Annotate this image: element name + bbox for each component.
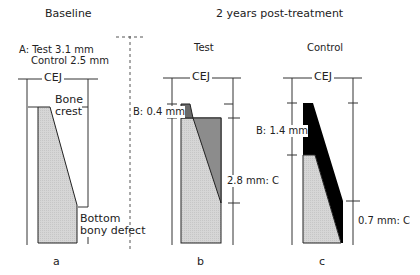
panel-b-diagram: [163, 78, 241, 245]
panel-letter-a: a: [53, 256, 60, 268]
measure-c-control: 0.7 mm: C: [358, 215, 410, 227]
panel-c-diagram: [283, 78, 362, 245]
cej-label-c: CEJ: [312, 71, 334, 83]
cej-label-a: CEJ: [42, 72, 64, 84]
header-post-treatment: 2 years post-treatment: [216, 8, 343, 20]
bone-crest-label-2: crest: [55, 106, 82, 118]
cej-label-b: CEJ: [190, 71, 212, 83]
header-baseline: Baseline: [45, 8, 92, 20]
panel-title-test: Test: [194, 42, 214, 54]
bottom-defect-label-2: bony defect: [80, 225, 145, 237]
measure-b-test: B: 0.4 mm: [133, 106, 185, 118]
panel-letter-b: b: [197, 256, 204, 268]
measure-c-test: 2.8 mm: C: [227, 175, 279, 187]
measure-a-control: Control 2.5 mm: [31, 55, 109, 67]
measure-b-control: B: 1.4 mm: [256, 125, 308, 137]
panel-title-control: Control: [307, 42, 343, 54]
panel-letter-c: c: [319, 256, 325, 268]
